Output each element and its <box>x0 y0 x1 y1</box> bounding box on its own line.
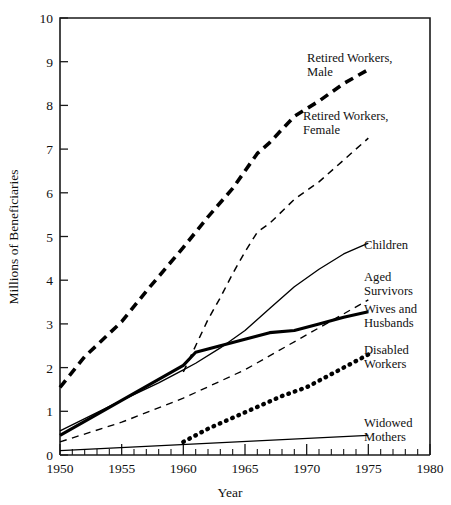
series-line-aged-survivors <box>60 300 368 442</box>
chart-container: 0 1 2 3 4 5 6 7 8 9 10 <box>0 0 451 505</box>
y-tick-label: 7 <box>46 142 53 157</box>
y-axis-ticks <box>60 18 68 455</box>
y-tick-label: 8 <box>46 98 53 113</box>
series-label-children: Children <box>364 238 409 252</box>
series-label-retired-workers-female-2: Female <box>303 123 340 137</box>
y-axis-title: Millions of Beneficiaries <box>6 170 21 305</box>
y-tick-label: 5 <box>46 230 53 245</box>
series-label-widowed-mothers-2: Mothers <box>364 430 406 444</box>
x-tick-label: 1975 <box>355 461 382 476</box>
y-tick-label: 3 <box>46 317 53 332</box>
series-label-disabled-workers: Disabled <box>364 343 409 357</box>
series-labels: Retired Workers, Male Retired Workers, F… <box>303 51 418 444</box>
series-label-aged-survivors: Aged <box>364 270 392 284</box>
series-label-aged-survivors-2: Survivors <box>364 284 413 298</box>
series-label-wives-and-husbands: Wives and <box>364 302 418 316</box>
plot-frame <box>60 18 430 455</box>
series-label-retired-workers-female: Retired Workers, <box>303 109 389 123</box>
y-tick-label: 4 <box>46 273 53 288</box>
series-line-retired-workers-female <box>183 138 368 372</box>
x-tick-label: 1980 <box>417 461 444 476</box>
series-line-wives-and-husbands <box>60 312 368 436</box>
y-tick-label: 2 <box>46 361 53 376</box>
y-tick-label: 10 <box>40 11 54 26</box>
x-tick-label: 1970 <box>293 461 320 476</box>
series-label-retired-workers-male-2: Male <box>307 65 333 79</box>
series-label-disabled-workers-2: Workers <box>364 357 406 371</box>
x-tick-label: 1950 <box>47 461 74 476</box>
line-chart: 0 1 2 3 4 5 6 7 8 9 10 <box>0 0 451 505</box>
x-tick-label: 1965 <box>232 461 259 476</box>
series-label-wives-and-husbands-2: Husbands <box>364 316 414 330</box>
x-axis-title: Year <box>218 485 243 500</box>
series-label-retired-workers-male: Retired Workers, <box>307 51 393 65</box>
y-tick-label: 6 <box>46 186 53 201</box>
x-tick-label: 1955 <box>108 461 135 476</box>
y-axis-tick-labels: 0 1 2 3 4 5 6 7 8 9 10 <box>40 11 54 463</box>
y-tick-label: 9 <box>46 55 53 70</box>
y-tick-label: 1 <box>46 404 53 419</box>
series-label-widowed-mothers: Widowed <box>364 416 413 430</box>
series-line-widowed-mothers <box>60 435 368 450</box>
x-axis-tick-labels: 1950 1955 1960 1965 1970 1975 1980 <box>47 461 444 476</box>
x-axis-major-ticks <box>60 444 430 455</box>
series-line-disabled-workers <box>183 354 368 441</box>
x-tick-label: 1960 <box>170 461 197 476</box>
